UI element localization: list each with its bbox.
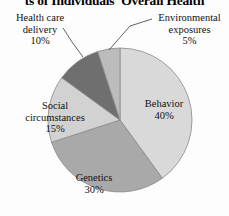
pie-value-health-care-delivery: 10% (2, 35, 78, 47)
chart-page: ts of Individuals' Overall Health Health… (0, 0, 229, 216)
pie-label-social-circumstances-line2: circumstances (25, 112, 84, 123)
pie-label-environmental-exposures: Environmental exposures 5% (150, 12, 229, 47)
pie-label-behavior-text: Behavior (145, 98, 184, 109)
pie-label-health-care-delivery-line2: delivery (23, 24, 57, 35)
pie-value-environmental-exposures: 5% (150, 35, 229, 47)
leader-line-environmental-exposures (109, 19, 152, 50)
pie-label-health-care-delivery-line1: Health care (16, 12, 64, 23)
pie-label-genetics: Genetics 30% (62, 172, 126, 195)
pie-value-genetics: 30% (62, 184, 126, 196)
pie-value-social-circumstances: 15% (12, 123, 98, 135)
pie-label-environmental-exposures-line2: exposures (169, 24, 211, 35)
pie-label-genetics-text: Genetics (76, 172, 113, 183)
pie-label-behavior: Behavior 40% (133, 98, 195, 121)
pie-label-social-circumstances-line1: Social (42, 100, 68, 111)
pie-label-health-care-delivery: Health care delivery 10% (2, 12, 78, 47)
pie-value-behavior: 40% (133, 110, 195, 122)
pie-label-social-circumstances: Social circumstances 15% (12, 100, 98, 135)
pie-label-environmental-exposures-line1: Environmental (158, 12, 220, 23)
